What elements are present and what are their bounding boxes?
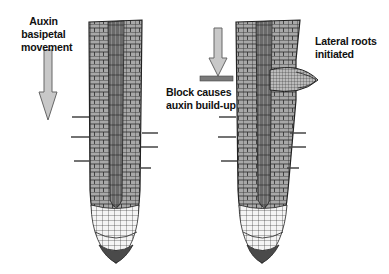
left-root <box>71 20 158 263</box>
right-root <box>218 20 306 263</box>
down-arrow-icon <box>209 28 227 76</box>
block-label: Block causes auxin build-up <box>166 86 236 112</box>
lateral-roots-label: Lateral roots initiated <box>315 35 377 61</box>
block-bar <box>200 76 233 81</box>
auxin-movement-label: Auxin basipetal movement <box>14 15 73 54</box>
label-line: initiated <box>315 48 377 61</box>
label-line: Lateral roots <box>315 35 377 48</box>
label-line: Auxin basipetal <box>14 15 73 41</box>
lateral-root-primordium <box>270 68 318 92</box>
label-line: auxin build-up <box>166 99 236 112</box>
label-line: movement <box>14 41 73 54</box>
down-arrow-icon <box>39 50 57 120</box>
label-line: Block causes <box>166 86 236 99</box>
